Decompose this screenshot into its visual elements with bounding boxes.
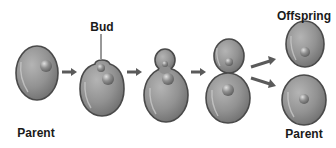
nucleus-icon: [162, 73, 174, 85]
parent-cell-final: [282, 75, 326, 125]
bud-nucleus-icon: [97, 64, 105, 72]
bud-label: Bud: [90, 20, 113, 34]
arrow-to-parent-icon: [251, 78, 276, 88]
budding-diagram: Bud Parent Offspring Parent: [0, 0, 336, 148]
stage-3-budding-cell: [144, 49, 188, 122]
nucleus-icon: [222, 84, 234, 96]
bud-nucleus-icon: [162, 61, 168, 67]
stage-4-dividing-cell: [206, 39, 250, 123]
arrow-3-icon: [191, 68, 206, 76]
nucleus-icon: [102, 73, 114, 85]
offspring-label: Offspring: [277, 9, 331, 23]
parent-end-label: Parent: [285, 127, 322, 141]
stage-2-budding-cell: [80, 60, 124, 116]
parent-start-label: Parent: [17, 126, 54, 140]
nucleus-icon: [40, 60, 52, 72]
offspring-nucleus-icon: [225, 58, 233, 66]
arrow-to-offspring-icon: [251, 56, 276, 67]
arrow-2-icon: [127, 68, 142, 76]
arrow-1-icon: [62, 68, 77, 76]
nucleus-icon: [300, 47, 310, 57]
stage-1-parent-cell: [16, 46, 58, 100]
offspring-cell: [286, 21, 324, 67]
nucleus-icon: [299, 94, 309, 104]
